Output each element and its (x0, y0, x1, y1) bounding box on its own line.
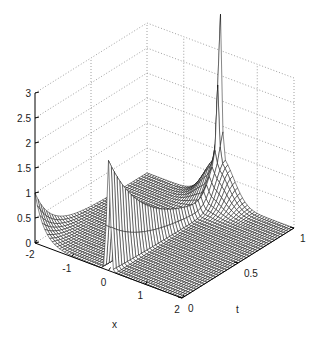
z-tick-label: 2 (25, 138, 31, 149)
z-tick-label: 0 (25, 238, 31, 249)
x-tick-label: 0 (101, 277, 107, 288)
x-tick-label: -2 (26, 249, 35, 260)
surface-plot: 00.511.522.53 -2-1012 00.51 x t (0, 0, 317, 349)
t-axis-label: t (236, 304, 239, 315)
t-tick-label: 0 (188, 303, 194, 314)
surface-plot-figure: 00.511.522.53 -2-1012 00.51 x t (0, 0, 317, 349)
z-tick-label: 2.5 (17, 113, 31, 124)
x-axis-label: x (112, 319, 117, 330)
z-tick-label: 0.5 (17, 213, 31, 224)
z-tick-label: 1.5 (17, 163, 31, 174)
t-tick-label: 0.5 (244, 268, 258, 279)
x-tick-label: 1 (137, 290, 143, 301)
surface-mesh (35, 14, 294, 298)
x-tick-label: -1 (62, 263, 71, 274)
z-tick-label: 3 (25, 88, 31, 99)
t-tick-label: 1 (300, 233, 306, 244)
z-axis-ticks: 00.511.522.53 (17, 88, 39, 249)
x-tick-label: 2 (174, 304, 180, 315)
z-tick-label: 1 (25, 188, 31, 199)
